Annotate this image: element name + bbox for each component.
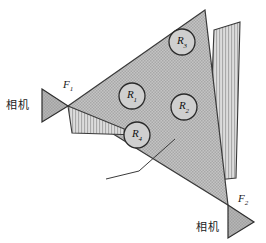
region-marker-R1[interactable] <box>119 83 145 109</box>
region-marker-R2[interactable] <box>171 94 197 120</box>
target-plane <box>68 10 228 205</box>
diagram-svg <box>0 0 266 243</box>
camera-left[interactable] <box>42 89 68 122</box>
figure-canvas: R1 R2 R3 R4 相机 F1 相机 F2 <box>0 0 266 243</box>
region-marker-R4[interactable] <box>124 122 150 148</box>
region-marker-R3[interactable] <box>169 29 195 55</box>
camera-bottom-right[interactable] <box>228 205 254 238</box>
